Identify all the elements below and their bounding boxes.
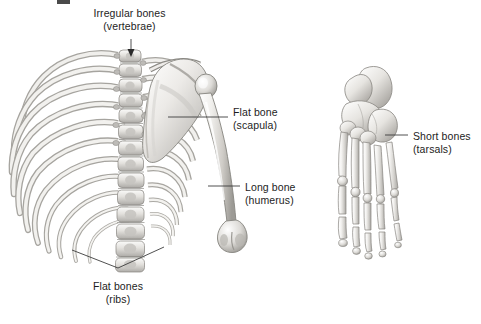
label-flat-bones-ribs-line1: Flat bones	[93, 280, 143, 292]
label-short-bones-tarsals: Short bones (tarsals)	[413, 130, 471, 155]
label-short-bones-tarsals-line2: (tarsals)	[413, 143, 471, 156]
label-flat-bone-scapula-line2: (scapula)	[233, 119, 278, 132]
label-irregular-bones-line2: (vertebrae)	[62, 20, 197, 33]
label-flat-bone-scapula: Flat bone (scapula)	[233, 106, 278, 131]
label-irregular-bones-line1: Irregular bones	[93, 7, 165, 19]
label-long-bone-humerus: Long bone (humerus)	[245, 181, 296, 206]
vertebral-column	[116, 48, 146, 272]
label-long-bone-humerus-line2: (humerus)	[245, 194, 296, 207]
label-long-bone-humerus-line1: Long bone	[245, 181, 296, 193]
bone-classification-figure	[0, 0, 481, 324]
label-flat-bone-scapula-line1: Flat bone	[233, 106, 278, 118]
figure-background	[0, 0, 481, 324]
label-short-bones-tarsals-line1: Short bones	[413, 130, 471, 142]
label-flat-bones-ribs-line2: (ribs)	[58, 293, 178, 306]
label-irregular-bones: Irregular bones (vertebrae)	[62, 7, 197, 32]
top-edge-mark	[57, 0, 70, 4]
label-flat-bones-ribs: Flat bones (ribs)	[58, 280, 178, 305]
